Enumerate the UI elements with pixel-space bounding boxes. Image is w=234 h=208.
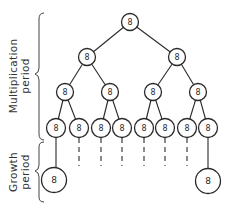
tree-node-l3: 8 <box>145 84 162 101</box>
multiplication-label-line1: Multiplication <box>7 39 19 114</box>
growth-label-line2: period <box>19 154 31 189</box>
multiplication-period-label: Multiplication period <box>7 39 31 114</box>
svg-text:8: 8 <box>119 124 124 133</box>
tree-node-l4: 8 <box>92 119 111 138</box>
tree-node-l4: 8 <box>135 119 154 138</box>
multiplication-brace <box>35 13 44 140</box>
multiplication-label-line2: period <box>19 58 31 93</box>
growth-label-line1: Growth <box>7 152 19 192</box>
tree-node-l4: 8 <box>47 119 66 138</box>
tree-node-l4: 8 <box>178 119 197 138</box>
tree-node-l2: 8 <box>169 49 186 66</box>
svg-text:8: 8 <box>76 124 81 133</box>
svg-text:8: 8 <box>150 88 155 97</box>
svg-text:8: 8 <box>195 88 200 97</box>
svg-text:8: 8 <box>141 124 146 133</box>
tree-node-l2: 8 <box>79 49 96 66</box>
tree-node-l3: 8 <box>190 84 207 101</box>
cell-division-diagram: Multiplication period Growth period <box>0 0 234 208</box>
svg-text:8: 8 <box>127 18 132 27</box>
tree-node-root: 8 <box>122 14 139 31</box>
svg-text:8: 8 <box>62 88 67 97</box>
svg-text:8: 8 <box>162 124 167 133</box>
growth-period-label: Growth period <box>7 152 31 192</box>
tree-node-l4: 8 <box>70 119 89 138</box>
tree-node-l3: 8 <box>57 84 74 101</box>
growth-node-right: 8 <box>196 169 221 194</box>
svg-text:8: 8 <box>184 124 189 133</box>
tree-node-l4: 8 <box>113 119 132 138</box>
svg-text:8: 8 <box>174 53 179 62</box>
svg-text:8: 8 <box>84 53 89 62</box>
tree-node-l3: 8 <box>102 84 119 101</box>
svg-text:8: 8 <box>205 124 210 133</box>
svg-text:8: 8 <box>51 175 57 185</box>
tree-node-l4: 8 <box>156 119 175 138</box>
growth-brace <box>35 142 44 202</box>
growth-node-left: 8 <box>42 168 67 193</box>
tree-edges <box>56 22 208 169</box>
svg-text:8: 8 <box>98 124 103 133</box>
svg-text:8: 8 <box>107 88 112 97</box>
svg-text:8: 8 <box>53 124 58 133</box>
svg-text:8: 8 <box>205 176 211 186</box>
tree-node-l4: 8 <box>199 119 218 138</box>
